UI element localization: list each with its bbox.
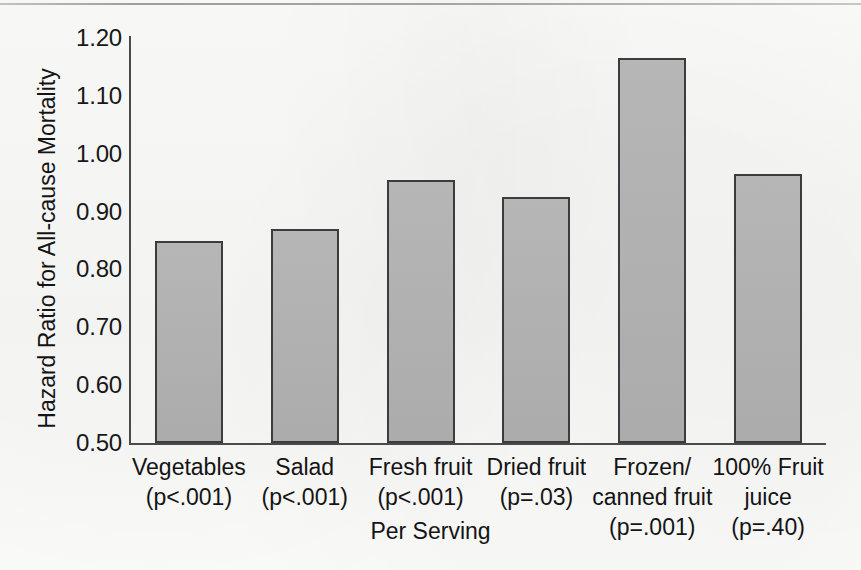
bar [618, 58, 686, 443]
x-axis-title: Per Serving [0, 518, 861, 544]
x-tick-name: 100% Fruit [668, 452, 861, 482]
bar [502, 197, 570, 443]
bar [734, 174, 802, 443]
figure-page: 0.500.600.700.800.901.001.101.20 Hazard … [0, 0, 861, 570]
x-tick-name: juice [668, 482, 861, 512]
bar [155, 241, 223, 444]
plot-area [131, 38, 826, 443]
bar [271, 229, 339, 443]
bar [387, 180, 455, 443]
bar-chart: 0.500.600.700.800.901.001.101.20 Hazard … [0, 0, 861, 570]
y-axis-title: Hazard Ratio for All-cause Mortality [35, 39, 60, 459]
x-axis-line [129, 443, 826, 445]
